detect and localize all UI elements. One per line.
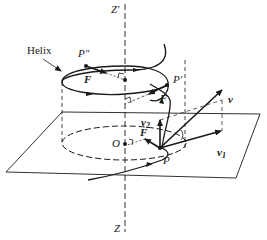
- label-force-middle: F: [159, 92, 168, 104]
- label-P: P: [162, 154, 170, 166]
- force-dash-middle: [125, 94, 149, 104]
- force-arrow-lower: [145, 139, 160, 148]
- label-helix: Helix: [27, 44, 52, 56]
- force-dash-upper: [106, 73, 125, 80]
- helix-diagram: Helix Z' Z P" P' P O F F F v v2 v1: [0, 0, 267, 240]
- right-angle-upper: [118, 73, 124, 78]
- point-O: [123, 142, 127, 146]
- helix-pointer: [43, 59, 61, 71]
- label-P-double-prime: P": [77, 47, 90, 59]
- label-axis-top: Z': [111, 3, 120, 15]
- label-O: O: [112, 137, 120, 149]
- label-velocity-1: v1: [217, 146, 226, 160]
- label-axis-bottom: Z: [114, 222, 121, 234]
- label-force-upper: F: [83, 73, 92, 85]
- helix-top-arc: [62, 66, 168, 101]
- label-velocity: v: [228, 93, 233, 105]
- angle-arc: [181, 130, 183, 140]
- label-velocity-2: v2: [141, 116, 150, 130]
- helix-arrow-lower: [146, 162, 153, 167]
- label-P-prime: P': [172, 73, 183, 85]
- helix-arrow-upper: [86, 92, 94, 96]
- force-dash-lower: [127, 139, 145, 145]
- helix-arrow-top: [133, 68, 140, 72]
